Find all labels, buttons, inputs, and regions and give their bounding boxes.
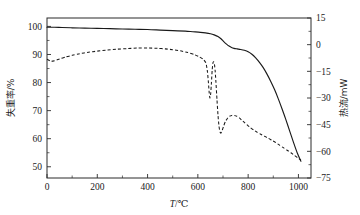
y2-tick-label: −75 bbox=[316, 173, 331, 183]
figure-container: 02004006008001000 5060708090100 −75−60−4… bbox=[0, 0, 360, 215]
y-axis-left-tick-labels: 5060708090100 bbox=[28, 22, 43, 172]
plot-frame bbox=[47, 18, 311, 178]
y2-tick-label: −60 bbox=[316, 147, 331, 157]
y2-tick-label: −30 bbox=[316, 93, 331, 103]
y-axis-right-tick-labels: −75−60−45−30−15015 bbox=[316, 13, 331, 183]
x-tick-label: 600 bbox=[191, 182, 206, 192]
y-tick-label: 100 bbox=[28, 22, 43, 32]
y-axis-left-title: 失重率/% bbox=[5, 78, 16, 117]
y2-tick-label: 0 bbox=[316, 40, 321, 50]
y-tick-label: 60 bbox=[33, 134, 43, 144]
y-tick-label: 80 bbox=[33, 78, 43, 88]
x-tick-label: 200 bbox=[90, 182, 105, 192]
y-tick-label: 50 bbox=[33, 162, 43, 172]
x-axis-title: T/℃ bbox=[170, 199, 189, 209]
x-axis-tick-labels: 02004006008001000 bbox=[45, 182, 309, 192]
x-tick-label: 400 bbox=[140, 182, 155, 192]
y-tick-label: 70 bbox=[33, 106, 43, 116]
y2-tick-label: −15 bbox=[316, 67, 331, 77]
tg-curve bbox=[47, 27, 301, 161]
dsc-curve bbox=[47, 48, 301, 160]
y2-tick-label: 15 bbox=[316, 13, 326, 23]
x-tick-label: 800 bbox=[241, 182, 256, 192]
y-tick-label: 90 bbox=[33, 50, 43, 60]
y2-tick-label: −45 bbox=[316, 120, 331, 130]
x-tick-label: 0 bbox=[45, 182, 50, 192]
x-tick-label: 1000 bbox=[289, 182, 308, 192]
x-axis-title-unit: /℃ bbox=[175, 199, 189, 209]
x-axis-ticks bbox=[47, 174, 298, 178]
y-axis-left-ticks bbox=[47, 26, 51, 166]
y-axis-right-title: 热流/mW bbox=[338, 79, 349, 118]
tga-dsc-chart: 02004006008001000 5060708090100 −75−60−4… bbox=[0, 0, 360, 215]
y-axis-right-ticks bbox=[307, 18, 311, 178]
